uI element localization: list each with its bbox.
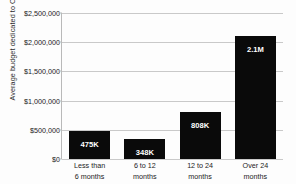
x-axis-category-line: months <box>173 172 228 183</box>
y-axis-tick-label: $500,000 <box>16 125 60 134</box>
x-axis-category-label: 6 to 12months <box>117 161 172 182</box>
bar <box>235 36 276 159</box>
x-axis-category-line: 6 to 12 <box>117 161 172 172</box>
bar-data-label: 475K <box>69 140 110 149</box>
x-axis-category-line: 12 to 24 <box>173 161 228 172</box>
y-axis-tick-label: $2,000,000 <box>16 38 60 47</box>
x-axis-category-line: 6 months <box>62 172 117 183</box>
y-axis-tick-label: $0 <box>16 155 60 164</box>
y-axis-tick-label: $2,500,000 <box>16 9 60 18</box>
y-axis-tick-label: $1,000,000 <box>16 96 60 105</box>
x-axis-category-line: Over 24 <box>228 161 283 172</box>
x-axis-category-label: Over 24months <box>228 161 283 182</box>
x-axis-category-line: months <box>117 172 172 183</box>
gridline <box>62 159 283 160</box>
y-axis-tick-labels: $0$500,000$1,000,000$1,500,000$2,000,000… <box>16 0 60 184</box>
x-axis-category-label: Less than6 months <box>62 161 117 182</box>
bar-data-label: 808K <box>180 121 221 130</box>
bar <box>180 112 221 159</box>
plot-area: 475K348K808K2.1M <box>62 13 283 159</box>
y-axis-tick-label: $1,500,000 <box>16 67 60 76</box>
bar-series: 475K348K808K2.1M <box>62 13 283 159</box>
x-axis-category-line: Less than <box>62 161 117 172</box>
bar-data-label: 2.1M <box>235 45 276 54</box>
bar-chart: Average budget dedicated to CM $0$500,00… <box>0 0 296 184</box>
x-axis-category-label: 12 to 24months <box>173 161 228 182</box>
bar-data-label: 348K <box>124 148 165 157</box>
x-axis-category-line: months <box>228 172 283 183</box>
x-axis-tick-labels: Less than6 months6 to 12months12 to 24mo… <box>62 161 283 184</box>
